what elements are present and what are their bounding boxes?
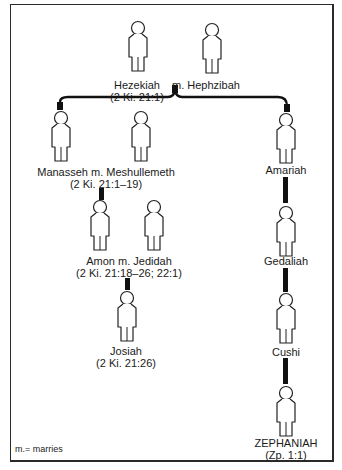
ref-hezekiah: (2 Ki. 21:1): [110, 91, 164, 103]
connector-amon-josiah: [125, 278, 130, 290]
person-icon-hephzibah: [201, 22, 223, 84]
label-josiah: Josiah (2 Ki. 21:26): [96, 345, 156, 369]
connector-gedaliah-cushi: [283, 268, 288, 292]
connector-cushi-zephaniah: [283, 358, 288, 384]
name-hezekiah: Hezekiah: [110, 79, 164, 91]
ref-zephaniah: (Zp. 1:1): [255, 449, 318, 461]
label-hezekiah: Hezekiah (2 Ki. 21:1): [110, 79, 164, 103]
person-icon-meshullemeth: [130, 110, 152, 172]
label-amariah: Amariah: [266, 164, 307, 176]
person-icon-josiah: [116, 290, 138, 352]
label-cushi: Cushi: [272, 346, 300, 358]
person-icon-hezekiah: [127, 20, 149, 82]
ref-amon: (2 Ki. 21:18–26; 22:1): [76, 267, 182, 279]
label-manasseh: Manasseh m. Meshullemeth (2 Ki. 21:1–19): [37, 166, 175, 190]
name-manasseh: Manasseh m. Meshullemeth: [37, 166, 175, 178]
label-gedaliah: Gedaliah: [264, 255, 308, 267]
person-icon-manasseh: [50, 110, 72, 172]
name-amon: Amon m. Jedidah: [76, 255, 182, 267]
person-icon-jedidah: [143, 199, 165, 261]
connector-amariah-gedaliah: [283, 177, 288, 203]
name-josiah: Josiah: [96, 345, 156, 357]
person-icon-cushi: [275, 292, 297, 354]
label-hephzibah: m. Hephzibah: [172, 79, 240, 91]
name-zephaniah: ZEPHANIAH: [255, 437, 318, 449]
label-zephaniah: ZEPHANIAH (Zp. 1:1): [255, 437, 318, 461]
label-amon: Amon m. Jedidah (2 Ki. 21:18–26; 22:1): [76, 255, 182, 279]
ref-josiah: (2 Ki. 21:26): [96, 357, 156, 369]
ref-manasseh: (2 Ki. 21:1–19): [37, 178, 175, 190]
person-icon-amon: [89, 199, 111, 261]
legend-note: m.= marries: [15, 444, 63, 454]
